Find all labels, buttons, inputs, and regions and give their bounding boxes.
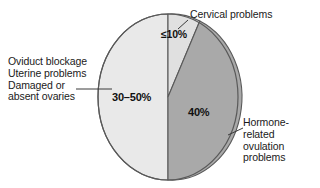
callout-label-hormone: Hormone- related ovulation problems — [243, 117, 289, 164]
callout-label-cervical-line1: Cervical problems — [190, 9, 272, 21]
callout-label-hormone-line4: problems — [243, 152, 289, 164]
callout-label-oviduct: Oviduct blockage Uterine problems Damage… — [8, 56, 87, 103]
pie-chart-figure: Cervical problems Oviduct blockage Uteri… — [0, 0, 320, 188]
callout-label-hormone-line2: related — [243, 129, 289, 141]
slice-value-cervical: ≤10% — [161, 28, 187, 40]
slice-value-hormone: 40% — [188, 106, 209, 118]
callout-label-oviduct-line4: absent ovaries — [8, 91, 87, 103]
slice-value-oviduct: 30–50% — [112, 91, 151, 103]
callout-label-oviduct-line2: Uterine problems — [8, 68, 87, 80]
callout-label-cervical: Cervical problems — [190, 9, 272, 21]
